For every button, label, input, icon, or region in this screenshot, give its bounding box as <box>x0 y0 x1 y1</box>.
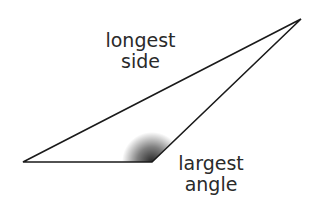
largest-angle-label-line1: largest <box>172 153 250 174</box>
longest-side-label-line1: longest <box>98 30 183 51</box>
largest-angle-label: largest angle <box>172 153 250 195</box>
largest-angle-label-line2: angle <box>172 174 250 195</box>
triangle-diagram: longest side largest angle <box>0 0 316 223</box>
longest-side-label: longest side <box>98 30 183 72</box>
longest-side-label-line2: side <box>98 51 183 72</box>
